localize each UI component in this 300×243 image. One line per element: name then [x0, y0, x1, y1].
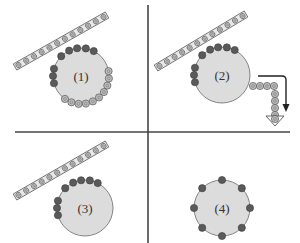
dark-bead: [238, 185, 245, 192]
panel-label: (4): [214, 201, 229, 216]
dark-bead: [82, 45, 89, 52]
dark-bead: [218, 176, 225, 183]
dark-bead: [94, 179, 101, 186]
chain-bead: [270, 82, 277, 89]
dark-bead: [66, 47, 73, 54]
light-bead: [89, 98, 96, 105]
light-bead: [82, 100, 89, 107]
dark-bead: [199, 185, 206, 192]
panel-4: (4): [190, 176, 253, 239]
dark-bead: [53, 204, 60, 211]
dark-bead: [231, 46, 238, 53]
chain-bead: [256, 82, 263, 89]
dark-bead: [54, 197, 61, 204]
dark-bead: [86, 177, 93, 184]
arrowhead-icon: [283, 104, 290, 112]
panel-2: (2): [154, 11, 289, 126]
dark-bead: [58, 53, 65, 60]
dark-bead: [50, 65, 57, 72]
chain-bead: [271, 104, 278, 111]
chain-bead: [271, 97, 278, 104]
panel-label: (3): [77, 201, 92, 216]
dark-bead: [78, 177, 85, 184]
dark-bead: [246, 204, 253, 211]
dark-bead: [50, 80, 57, 87]
dark-bead: [223, 44, 230, 51]
dark-bead: [218, 232, 225, 239]
dark-bead: [90, 47, 97, 54]
dark-bead: [191, 79, 198, 86]
dark-bead: [70, 179, 77, 186]
light-bead: [105, 75, 112, 82]
diagram-canvas: (1)(2)(3)(4): [0, 0, 300, 243]
dark-bead: [62, 185, 69, 192]
dark-bead: [238, 224, 245, 231]
light-bead: [61, 95, 68, 102]
panel-3: (3): [13, 141, 113, 236]
dark-bead: [207, 46, 214, 53]
dark-bead: [215, 44, 222, 51]
panels: (1)(2)(3)(4): [13, 11, 289, 240]
dark-bead: [190, 71, 197, 78]
dark-bead: [74, 45, 81, 52]
panel-label: (1): [73, 69, 88, 84]
chain-bead: [249, 82, 256, 89]
chain-bead: [271, 115, 278, 122]
dark-bead: [190, 204, 197, 211]
light-bead: [75, 100, 82, 107]
panel-label: (2): [214, 68, 229, 83]
dark-bead: [199, 52, 206, 59]
light-bead: [105, 68, 112, 75]
chain-bead: [263, 82, 270, 89]
dark-bead: [199, 224, 206, 231]
light-bead: [68, 99, 75, 106]
dark-bead: [54, 212, 61, 219]
dark-bead: [49, 72, 56, 79]
chain-bead: [271, 90, 278, 97]
panel-1: (1): [13, 12, 112, 108]
light-bead: [104, 82, 111, 89]
dark-bead: [191, 64, 198, 71]
